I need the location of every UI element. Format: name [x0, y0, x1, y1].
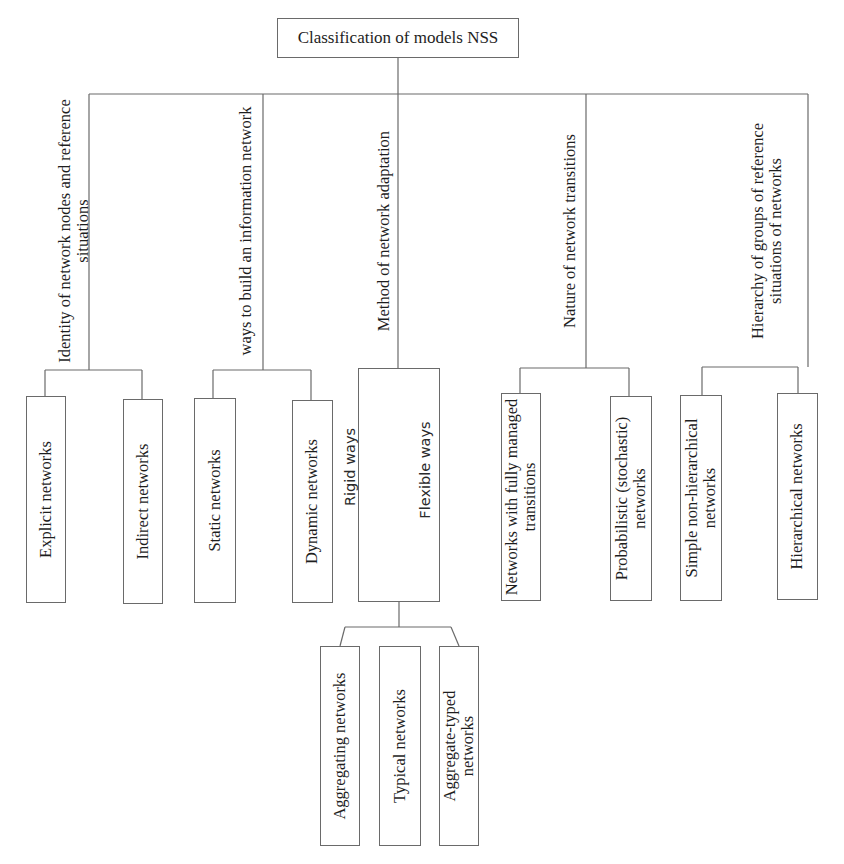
leaf-label-fully-managed: Networks with fully managed transitions	[501, 393, 541, 601]
category-label-text: Method of network adaptation	[375, 131, 393, 331]
leaf-label-text: Hierarchical networks	[788, 423, 806, 569]
leaf-label-flexible-ways: Flexible ways	[414, 400, 436, 540]
root-box: Classification of models NSS	[277, 18, 519, 58]
classification-diagram: Classification of models NSS Identity of…	[0, 0, 844, 864]
leaf-label-text: Simple non-hierarchical networks	[683, 403, 720, 593]
leaf-label-text: Dynamic networks	[303, 439, 321, 564]
category-label-text: Hierarchy of groups of reference situati…	[749, 116, 786, 346]
leaf-label-text: Networks with fully managed transitions	[503, 397, 540, 597]
root-title: Classification of models NSS	[298, 28, 499, 48]
leaf-label-aggregating: Aggregating networks	[320, 646, 360, 846]
leaf-label-text: Rigid ways	[342, 428, 358, 506]
category-label-hierarchy: Hierarchy of groups of reference situati…	[735, 96, 799, 366]
leaf-label-text: Static networks	[206, 449, 224, 551]
leaf-label-text: Flexible ways	[417, 421, 433, 518]
category-label-text: Identity of network nodes and reference …	[56, 96, 93, 366]
category-label-nature: Nature of network transitions	[557, 96, 583, 366]
category-label-text: ways to build an information network	[237, 107, 255, 356]
leaf-label-simple-non-hierarchical: Simple non-hierarchical networks	[680, 395, 722, 601]
leaf-label-text: Aggregate-typed networks	[441, 681, 478, 811]
leaf-label-probabilistic: Probabilistic (stochastic) networks	[610, 396, 652, 601]
leaf-label-rigid-ways: Rigid ways	[340, 402, 360, 532]
category-label-method: Method of network adaptation	[371, 96, 397, 366]
leaf-label-text: Indirect networks	[134, 444, 152, 560]
leaf-label-text: Aggregating networks	[331, 672, 349, 819]
leaf-label-indirect: Indirect networks	[123, 399, 163, 604]
leaf-label-typical: Typical networks	[379, 646, 421, 846]
leaf-label-static: Static networks	[194, 398, 236, 603]
leaf-label-hierarchical: Hierarchical networks	[777, 393, 818, 600]
category-label-text: Nature of network transitions	[561, 134, 579, 328]
leaf-label-explicit: Explicit networks	[26, 396, 66, 603]
leaf-label-text: Typical networks	[391, 689, 409, 803]
category-label-identity: Identity of network nodes and reference …	[52, 96, 96, 366]
leaf-label-aggregate-typed: Aggregate-typed networks	[439, 646, 479, 846]
category-label-ways: ways to build an information network	[224, 96, 268, 366]
leaf-label-dynamic: Dynamic networks	[292, 400, 333, 603]
leaf-label-text: Probabilistic (stochastic) networks	[613, 409, 650, 589]
leaf-label-text: Explicit networks	[37, 441, 55, 558]
